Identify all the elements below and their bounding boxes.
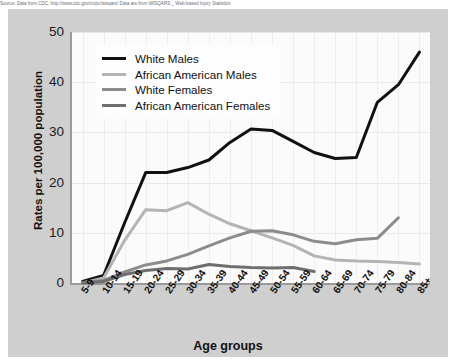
chart-legend: White MalesAfrican American MalesWhite F… xyxy=(96,45,280,119)
y-axis-tick-label: 40 xyxy=(24,74,64,89)
y-axis-tick-label: 30 xyxy=(24,124,64,139)
x-axis-title: Age groups xyxy=(8,339,448,353)
legend-label: African American Males xyxy=(135,68,257,81)
legend-swatch-icon xyxy=(102,73,126,76)
legend-swatch-icon xyxy=(102,57,126,60)
y-axis-tick-label: 20 xyxy=(24,175,64,190)
source-note: Source: Data from CDC, http://www.cdc.go… xyxy=(0,0,456,7)
y-axis-title: Rates per 100,000 population xyxy=(32,70,44,229)
legend-item: African American Females xyxy=(102,98,270,114)
y-axis-tick-label: 50 xyxy=(24,24,64,39)
chart-figure: Rates per 100,000 population 01020304050… xyxy=(8,9,448,357)
legend-item: White Females xyxy=(102,82,270,98)
legend-label: White Females xyxy=(135,83,212,96)
y-axis-tick-label: 10 xyxy=(24,225,64,240)
legend-label: White Males xyxy=(135,52,199,65)
legend-item: White Males xyxy=(102,51,270,67)
y-axis-tick-label: 0 xyxy=(24,275,64,290)
legend-label: African American Females xyxy=(135,99,270,112)
legend-item: African American Males xyxy=(102,67,270,83)
legend-swatch-icon xyxy=(102,104,126,107)
legend-swatch-icon xyxy=(102,88,126,91)
